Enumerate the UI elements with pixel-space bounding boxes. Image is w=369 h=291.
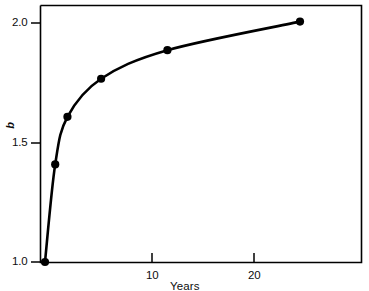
plot-canvas <box>0 0 369 291</box>
x-tick-label-20: 20 <box>248 270 260 282</box>
data-point-2 <box>63 113 71 121</box>
data-point-4 <box>163 46 171 54</box>
y-axis-ticks <box>31 23 41 262</box>
x-tick-label-10: 10 <box>146 270 158 282</box>
y-tick-label-2-0: 2.0 <box>12 17 27 29</box>
data-point-5 <box>296 18 304 26</box>
data-point-markers <box>41 18 304 267</box>
chart-figure: 2.0 1.5 1.0 10 20 Years b <box>0 0 369 291</box>
data-point-1 <box>51 160 59 168</box>
x-axis-ticks <box>152 253 254 263</box>
plot-frame <box>41 6 362 263</box>
x-axis-title: Years <box>170 281 200 291</box>
data-point-3 <box>97 75 105 83</box>
y-tick-label-1-5: 1.5 <box>12 137 27 149</box>
data-curve <box>45 22 300 262</box>
y-tick-label-1-0: 1.0 <box>12 256 27 268</box>
y-axis-title: b <box>5 122 16 129</box>
data-point-0 <box>41 258 49 266</box>
